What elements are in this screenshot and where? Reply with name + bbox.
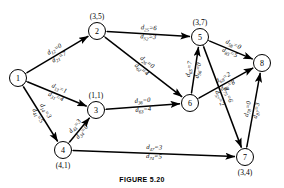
node-pair-2: (3,5)	[90, 12, 105, 21]
node-4[interactable]: 4(4,1)	[55, 142, 72, 170]
node-8[interactable]: 8	[254, 55, 271, 72]
node-number-6: 6	[188, 99, 192, 108]
node-number-5: 5	[198, 33, 202, 42]
edge-label-d87: d87=3	[251, 101, 263, 119]
node-5[interactable]: 5(3,7)	[192, 18, 209, 46]
node-6[interactable]: 6	[182, 95, 199, 112]
node-3[interactable]: 3(1,1)	[88, 91, 105, 119]
node-number-4: 4	[61, 146, 65, 155]
figure-caption: FIGURE 5.20	[0, 176, 284, 183]
node-pair-5: (3,7)	[193, 18, 208, 27]
figure-container: 12(3,5)3(1,1)4(4,1)5(3,7)67(3,4)8 d12=0d…	[0, 0, 284, 188]
node-number-2: 2	[95, 27, 99, 36]
node-pair-4: (4,1)	[56, 161, 71, 170]
node-pair-3: (1,1)	[89, 91, 104, 100]
network-diagram: 12(3,5)3(1,1)4(4,1)5(3,7)67(3,4)8 d12=0d…	[0, 0, 284, 188]
edge-label-d47: d47=3	[146, 143, 163, 152]
node-number-8: 8	[260, 59, 264, 68]
edge-label-d63: d63=4	[135, 105, 152, 115]
edge-label-d52: d52=3	[140, 32, 157, 42]
node-2[interactable]: 2(3,5)	[89, 12, 106, 40]
edge-label-d74: d74=5	[146, 152, 163, 161]
node-1[interactable]: 1	[10, 70, 27, 87]
edge-label-d56: d56=0	[193, 61, 204, 79]
node-number-3: 3	[94, 106, 98, 115]
node-7[interactable]: 7(3,4)	[237, 149, 254, 177]
edge-labels-layer: d12=0d21=7d13=1d31=4d14=3d41=5d25=6d52=3…	[30, 23, 263, 161]
node-number-7: 7	[243, 153, 247, 162]
node-number-1: 1	[16, 74, 20, 83]
